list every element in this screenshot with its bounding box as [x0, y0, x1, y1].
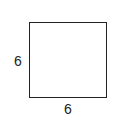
left-side-label: 6 — [14, 54, 22, 68]
bottom-side-label: 6 — [64, 102, 72, 116]
square-shape — [29, 22, 107, 98]
